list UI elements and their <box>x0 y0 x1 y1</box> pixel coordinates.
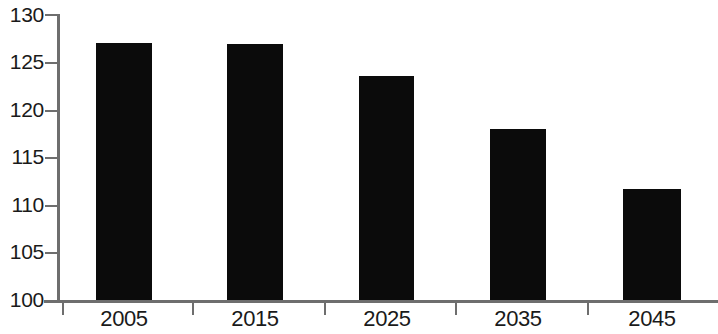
x-axis-label-2015: 2015 <box>195 306 315 332</box>
x-axis-label-2025: 2025 <box>327 306 447 332</box>
plot-area <box>0 0 718 334</box>
x-axis-tick-4 <box>587 303 589 315</box>
bar-2035 <box>490 129 546 300</box>
x-axis-tick-1 <box>192 303 194 315</box>
x-axis-label-2005: 2005 <box>64 306 184 332</box>
x-axis-label-2045: 2045 <box>592 306 712 332</box>
bar-2045 <box>623 189 681 300</box>
bar-2005 <box>96 43 152 300</box>
bar-2025 <box>359 76 414 300</box>
bar-chart: 130 125 120 115 110 105 100 2005 2015 20… <box>0 0 718 334</box>
bar-2015 <box>227 44 283 300</box>
x-axis-tick-3 <box>455 303 457 315</box>
x-axis-tick-2 <box>324 303 326 315</box>
x-axis-label-2035: 2035 <box>458 306 578 332</box>
